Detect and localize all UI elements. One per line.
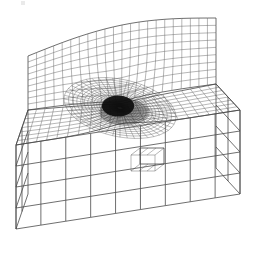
flange-left-end-cap — [16, 110, 28, 229]
weld-notch-detail — [131, 148, 164, 171]
scan-artifact — [21, 1, 25, 5]
flange-right-end-cap — [216, 84, 240, 194]
finite-element-mesh-svg — [0, 0, 268, 253]
crack-tip-singularity — [64, 78, 176, 139]
mesh-figure-root — [0, 0, 268, 253]
